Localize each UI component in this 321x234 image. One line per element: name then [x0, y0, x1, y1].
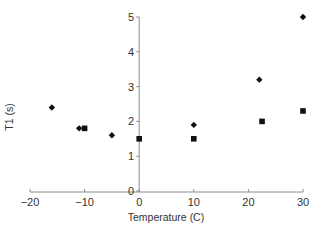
diamond-marker	[256, 76, 262, 82]
y-tick-label: 4	[128, 46, 134, 58]
y-tick-label: 3	[128, 81, 134, 93]
x-tick-label: 10	[188, 196, 200, 208]
axes: −20−100102030012345	[21, 11, 309, 208]
diamond-marker	[109, 132, 115, 138]
y-axis-title: T1 (s)	[3, 103, 15, 130]
data-points	[49, 14, 307, 142]
x-tick-label: −20	[21, 196, 40, 208]
x-tick-label: 30	[297, 196, 309, 208]
y-tick-label: 2	[128, 115, 134, 127]
scatter-chart: −20−100102030012345 Temperature (C) T1 (…	[0, 0, 321, 234]
y-tick-label: 5	[128, 11, 134, 23]
square-marker	[259, 119, 265, 125]
x-tick-label: −10	[75, 196, 94, 208]
x-tick-label: 0	[136, 196, 142, 208]
y-tick-label: 0	[128, 185, 134, 197]
square-marker	[82, 126, 88, 132]
y-tick-label: 1	[128, 150, 134, 162]
square-marker	[300, 108, 306, 114]
diamond-marker	[76, 125, 82, 131]
x-tick-label: 20	[242, 196, 254, 208]
diamond-marker	[300, 14, 306, 20]
x-axis-title: Temperature (C)	[128, 211, 204, 223]
square-marker	[191, 136, 197, 142]
caption-fragment	[0, 224, 321, 234]
diamond-marker	[191, 122, 197, 128]
diamond-marker	[49, 104, 55, 110]
square-marker	[136, 136, 142, 142]
